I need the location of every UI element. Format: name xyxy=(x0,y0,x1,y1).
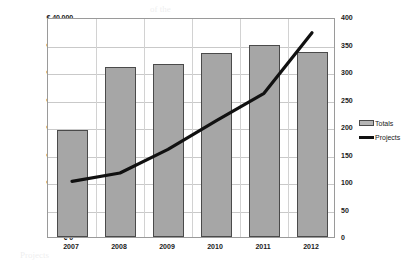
legend-label-totals: Totals xyxy=(375,120,393,127)
legend-item-projects: Projects xyxy=(359,130,400,144)
bar-swatch-icon xyxy=(359,120,374,126)
y-axis-right-tick-label: 0 xyxy=(341,234,367,242)
bg-text: Projects xyxy=(20,250,49,260)
y-axis-right-tick-label: 350 xyxy=(341,42,367,50)
y-axis-right-tick-label: 400 xyxy=(341,14,367,22)
plot-area xyxy=(47,18,335,238)
legend-item-totals: Totals xyxy=(359,116,400,130)
x-axis-tick-label: 2011 xyxy=(239,243,287,250)
x-axis-tick-label: 2007 xyxy=(47,243,95,250)
y-axis-right-tick-label: 100 xyxy=(341,179,367,187)
line-swatch-icon xyxy=(359,136,374,139)
bg-text: of the xyxy=(150,4,171,14)
x-axis-tick-label: 2008 xyxy=(95,243,143,250)
line-series-projects xyxy=(48,19,336,239)
y-axis-right-tick-label: 250 xyxy=(341,97,367,105)
x-axis-tick-label: 2010 xyxy=(191,243,239,250)
x-axis-tick-label: 2009 xyxy=(143,243,191,250)
y-axis-right-tick-label: 300 xyxy=(341,69,367,77)
x-axis-tick-label: 2012 xyxy=(287,243,335,250)
y-axis-right-tick-label: 150 xyxy=(341,152,367,160)
legend-label-projects: Projects xyxy=(375,134,400,141)
chart-legend: Totals Projects xyxy=(359,116,400,144)
chart-container: of the in 2012 € 33,7 to a the number of… xyxy=(0,0,413,263)
y-axis-right-tick-label: 50 xyxy=(341,207,367,215)
